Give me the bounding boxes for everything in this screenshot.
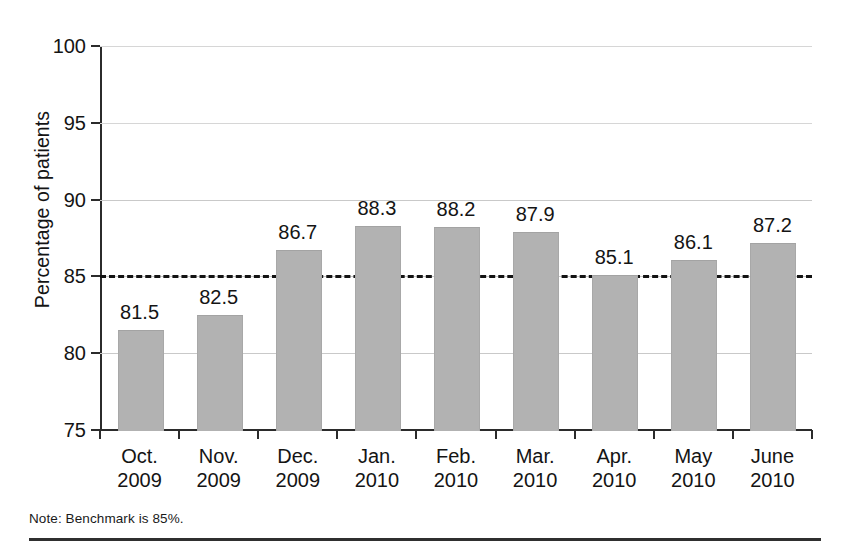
bar [671,260,717,431]
x-axis-tick-mark [574,430,576,439]
y-axis-tick-label: 95 [38,113,86,133]
x-axis-tick-mark [99,430,101,439]
x-label-month: Jan. [358,445,396,467]
bar [592,275,638,431]
x-axis-tick-mark [653,430,655,439]
bar [197,315,243,431]
x-label-month: Oct. [121,445,158,467]
bar [513,232,559,431]
bar-value-label: 86.7 [253,222,343,242]
y-axis-tick-label: 75 [38,420,86,440]
bottom-divider [29,538,821,541]
x-label-year: 2010 [724,468,820,492]
x-axis-tick-mark [415,430,417,439]
x-axis-tick-mark [732,430,734,439]
gridline [100,46,812,47]
bar-value-label: 82.5 [174,287,264,307]
y-axis-tick-mark [91,275,100,277]
bar-value-label: 88.3 [332,198,422,218]
y-axis-tick-mark [91,122,100,124]
bar-value-label: 87.9 [490,204,580,224]
y-axis-tick-mark [91,352,100,354]
x-axis-tick-mark [336,430,338,439]
bar [434,227,480,431]
bar [355,226,401,431]
x-axis-tick-mark [178,430,180,439]
y-axis-tick-label: 90 [38,190,86,210]
bar-value-label: 81.5 [95,302,185,322]
bar-value-label: 85.1 [569,247,659,267]
x-label-month: Nov. [199,445,239,467]
gridline [100,123,812,124]
x-label-month: Dec. [277,445,318,467]
chart-plot-region: Percentage of patients 7580859095100 Oct… [0,0,849,500]
y-axis-tick-label: 100 [38,36,86,56]
x-axis-tick-mark [811,430,813,439]
x-label-month: Apr. [596,445,632,467]
x-axis-tick-mark [257,430,259,439]
x-label-month: Feb. [436,445,476,467]
x-axis-tick-mark [495,430,497,439]
y-axis-tick-mark [91,45,100,47]
x-label-month: May [674,445,712,467]
y-axis-tick-labels: 7580859095100 [34,0,86,500]
bar [276,250,322,431]
y-axis-tick-label: 85 [38,266,86,286]
bar-chart-figure: Percentage of patients 7580859095100 Oct… [0,0,849,546]
bar-value-label: 87.2 [727,215,817,235]
x-label-month: June [751,445,794,467]
x-axis-tick-label: June2010 [724,444,820,493]
chart-note: Note: Benchmark is 85%. [29,511,184,526]
bar [118,330,164,431]
x-label-month: Mar. [516,445,555,467]
y-axis-tick-label: 80 [38,343,86,363]
bar [750,243,796,431]
bar-value-label: 88.2 [411,199,501,219]
y-axis-tick-mark [91,199,100,201]
bar-value-label: 86.1 [648,232,738,252]
